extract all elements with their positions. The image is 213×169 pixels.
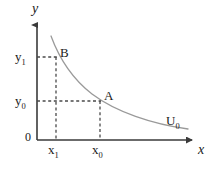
tick-label-x1: x1: [48, 143, 59, 159]
tick-label-y1-sub: 1: [22, 57, 26, 67]
tick-label-y0-sub: 0: [22, 101, 26, 111]
tick-label-x1-sub: 1: [55, 150, 59, 160]
curve-label-u0-base: U: [166, 113, 175, 128]
x-axis-label: x: [198, 143, 204, 157]
point-label-a: A: [104, 89, 113, 102]
y-axis-label: y: [32, 2, 38, 16]
figure-canvas: [0, 0, 213, 169]
point-label-b: B: [60, 46, 69, 59]
tick-label-y1: y1: [15, 50, 26, 66]
tick-label-x0-sub: 0: [99, 150, 103, 160]
origin-label: 0: [25, 131, 31, 143]
tick-label-x0: x0: [92, 143, 103, 159]
tick-label-y0: y0: [15, 94, 26, 110]
curve-label-u0-sub: 0: [175, 121, 179, 131]
curve-label-u0: U0: [166, 114, 180, 130]
indifference-curve-figure: y x 0 y1 y0 x1 x0 B A U0: [0, 0, 213, 169]
